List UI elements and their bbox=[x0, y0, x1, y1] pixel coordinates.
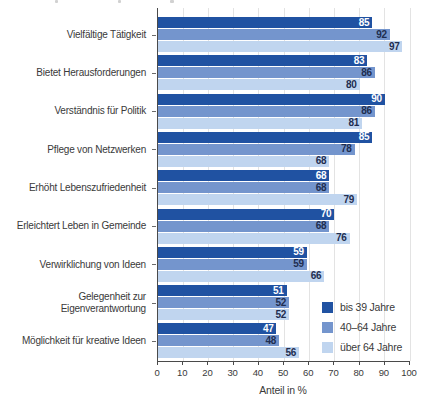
bar-value-label: 83 bbox=[354, 56, 365, 66]
category-tick bbox=[152, 149, 156, 150]
legend-label: über 64 Jahre bbox=[340, 341, 402, 353]
category-label: Gelegenheit zur Eigenverantwortung bbox=[2, 285, 150, 320]
legend-swatch bbox=[322, 322, 333, 333]
x-axis-title: Anteil in % bbox=[157, 384, 409, 396]
bar-value-label: 56 bbox=[286, 348, 297, 358]
bar-value-label: 79 bbox=[344, 195, 355, 205]
bar-medium: 92 bbox=[158, 29, 390, 40]
bar-value-label: 48 bbox=[265, 336, 276, 346]
legend-item: über 64 Jahre bbox=[322, 341, 402, 353]
x-tick-label: 100 bbox=[394, 367, 424, 378]
bar-value-label: 86 bbox=[361, 106, 372, 116]
bar-value-label: 51 bbox=[273, 286, 284, 296]
category-tick bbox=[152, 111, 156, 112]
bar-group: 706876 bbox=[158, 209, 410, 244]
bar-value-label: 59 bbox=[293, 259, 304, 269]
x-tick bbox=[258, 362, 259, 365]
bar-value-label: 92 bbox=[376, 30, 387, 40]
bar-dark: 85 bbox=[158, 132, 372, 143]
bar-dark: 70 bbox=[158, 209, 334, 220]
legend: bis 39 Jahre40–64 Jahreüber 64 Jahre bbox=[322, 301, 402, 361]
bar-group: 686879 bbox=[158, 170, 410, 205]
bar-medium: 68 bbox=[158, 182, 329, 193]
category-tick bbox=[152, 303, 156, 304]
bar-value-label: 85 bbox=[359, 18, 370, 28]
category-tick bbox=[152, 341, 156, 342]
x-tick bbox=[384, 362, 385, 365]
bar-value-label: 97 bbox=[389, 42, 400, 52]
bar-value-label: 85 bbox=[359, 132, 370, 142]
bar-dark: 47 bbox=[158, 323, 276, 334]
bar-value-label: 80 bbox=[346, 80, 357, 90]
bar-medium: 59 bbox=[158, 259, 307, 270]
bar-group: 908681 bbox=[158, 94, 410, 129]
bar-group: 857868 bbox=[158, 132, 410, 167]
bar-group: 838680 bbox=[158, 55, 410, 90]
bar-medium: 52 bbox=[158, 297, 289, 308]
x-tick bbox=[359, 362, 360, 365]
category-tick bbox=[152, 264, 156, 265]
bar-value-label: 76 bbox=[336, 233, 347, 243]
bar-value-label: 66 bbox=[311, 271, 322, 281]
x-tick bbox=[233, 362, 234, 365]
bar-group: 859297 bbox=[158, 17, 410, 52]
bar-value-label: 68 bbox=[316, 156, 327, 166]
legend-item: bis 39 Jahre bbox=[322, 301, 402, 313]
x-tick bbox=[283, 362, 284, 365]
bar-value-label: 90 bbox=[371, 94, 382, 104]
legend-swatch bbox=[322, 342, 333, 353]
bar-dark: 51 bbox=[158, 285, 287, 296]
legend-item: 40–64 Jahre bbox=[322, 321, 402, 333]
bar-medium: 48 bbox=[158, 335, 279, 346]
bar-light: 79 bbox=[158, 194, 357, 205]
category-tick bbox=[152, 35, 156, 36]
legend-label: bis 39 Jahre bbox=[340, 301, 395, 313]
category-tick bbox=[152, 188, 156, 189]
bar-light: 68 bbox=[158, 156, 329, 167]
category-label: Pflege von Netzwerken bbox=[2, 132, 150, 167]
bar-light: 81 bbox=[158, 118, 362, 129]
category-tick bbox=[152, 73, 156, 74]
bar-value-label: 86 bbox=[361, 68, 372, 78]
category-label: Erhöht Lebenszufriedenheit bbox=[2, 170, 150, 205]
bar-group: 595966 bbox=[158, 247, 410, 282]
bar-light: 56 bbox=[158, 347, 299, 358]
legend-label: 40–64 Jahre bbox=[340, 321, 396, 333]
bar-dark: 59 bbox=[158, 247, 307, 258]
bar-medium: 68 bbox=[158, 221, 329, 232]
bar-value-label: 70 bbox=[321, 209, 332, 219]
bar-value-label: 81 bbox=[349, 118, 360, 128]
bar-value-label: 52 bbox=[276, 298, 287, 308]
bar-chart: Vielfältige TätigkeitBietet Herausforder… bbox=[0, 0, 425, 405]
category-label: Verständnis für Politik bbox=[2, 94, 150, 129]
bar-value-label: 47 bbox=[263, 324, 274, 334]
x-tick bbox=[333, 362, 334, 365]
x-axis: 0102030405060708090100 bbox=[157, 362, 410, 380]
x-tick bbox=[308, 362, 309, 365]
bar-value-label: 68 bbox=[316, 183, 327, 193]
bar-dark: 68 bbox=[158, 170, 329, 181]
legend-swatch bbox=[322, 302, 333, 313]
category-label: Bietet Herausforderungen bbox=[2, 55, 150, 90]
bar-dark: 83 bbox=[158, 55, 367, 66]
category-tick bbox=[152, 226, 156, 227]
cropped-title-fragment bbox=[0, 0, 300, 4]
bar-medium: 86 bbox=[158, 106, 375, 117]
bar-value-label: 78 bbox=[341, 144, 352, 154]
x-tick bbox=[409, 362, 410, 365]
bar-dark: 85 bbox=[158, 17, 372, 28]
x-tick bbox=[207, 362, 208, 365]
bar-value-label: 59 bbox=[293, 247, 304, 257]
bar-value-label: 68 bbox=[316, 221, 327, 231]
category-labels: Vielfältige TätigkeitBietet Herausforder… bbox=[0, 8, 150, 361]
bar-light: 76 bbox=[158, 233, 350, 244]
category-label: Verwirklichung von Ideen bbox=[2, 247, 150, 282]
bar-medium: 78 bbox=[158, 144, 355, 155]
category-label: Vielfältige Tätigkeit bbox=[2, 17, 150, 52]
x-tick bbox=[157, 362, 158, 365]
bar-light: 52 bbox=[158, 309, 289, 320]
category-label: Erleichtert Leben in Gemeinde bbox=[2, 209, 150, 244]
bar-light: 97 bbox=[158, 41, 402, 52]
bar-value-label: 68 bbox=[316, 171, 327, 181]
bar-medium: 86 bbox=[158, 67, 375, 78]
